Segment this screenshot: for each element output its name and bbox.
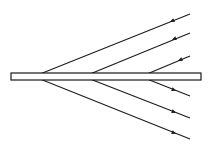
emergent-ray-1 bbox=[147, 79, 190, 96]
slab bbox=[11, 73, 201, 80]
incident-ray-3 bbox=[147, 56, 190, 74]
arrow-icon bbox=[171, 87, 176, 91]
lower-rays bbox=[40, 79, 190, 139]
arrow-icon bbox=[171, 109, 176, 113]
upper-rays bbox=[40, 14, 190, 74]
ray-diagram bbox=[0, 0, 210, 149]
